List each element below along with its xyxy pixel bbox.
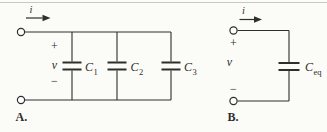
page-background [0, 0, 327, 132]
circuit-b-current-label: i [242, 5, 245, 16]
circuit-a-current-label: i [30, 4, 33, 15]
capacitor-3-subscript: 3 [193, 67, 197, 77]
circuit-figure: i + v − C 1 C 2 C 3 A. i + v − C [0, 0, 327, 132]
circuit-b-voltage-label: v [227, 55, 233, 69]
circuit-b-plus-sign: + [230, 36, 237, 50]
capacitor-2-subscript: 2 [139, 67, 143, 77]
circuit-a-plus-sign: + [51, 39, 58, 53]
circuit-b-terminal-bottom [230, 97, 237, 104]
circuit-b-terminal-top [230, 27, 237, 34]
circuit-b-figure-label: B. [228, 110, 239, 124]
figure-canvas: i + v − C 1 C 2 C 3 A. i + v − C [0, 0, 327, 132]
circuit-a-voltage-label: v [52, 58, 58, 72]
circuit-a-terminal-bottom [17, 96, 24, 103]
circuit-a-minus-sign: − [51, 74, 58, 88]
capacitor-1-subscript: 1 [94, 67, 98, 77]
capacitor-eq-subscript: eq [314, 67, 323, 77]
circuit-a-figure-label: A. [16, 110, 28, 124]
circuit-b-minus-sign: − [230, 82, 237, 96]
circuit-a-terminal-top [17, 28, 24, 35]
